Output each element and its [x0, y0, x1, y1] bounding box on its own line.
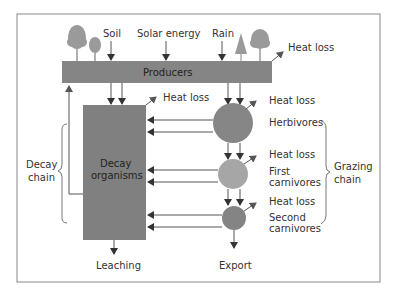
second-carnivores-heat-loss-label: Heat loss	[269, 196, 315, 207]
producers-label: Producers	[143, 67, 193, 78]
rain-label: Rain	[212, 28, 234, 39]
herbivores-heat-loss-label: Heat loss	[269, 95, 315, 106]
first-carnivores-label-line2: carnivores	[269, 177, 321, 188]
first-carnivores-heat-loss-label: Heat loss	[269, 149, 315, 160]
decay-organisms-label-line1: Decay	[100, 158, 131, 169]
leaching-label: Leaching	[96, 260, 141, 271]
second-carnivores-label-line2: carnivores	[269, 223, 321, 234]
soil-label: Soil	[103, 28, 121, 39]
export-label: Export	[219, 260, 252, 271]
second-carnivores-label-line1: Second	[269, 212, 306, 223]
decay-chain-label-line1: Decay	[26, 159, 57, 170]
first-carnivores-label-line1: First	[269, 166, 290, 177]
herbivores-label: Herbivores	[269, 117, 323, 128]
decay-chain-label-line2: chain	[28, 172, 55, 183]
producers-heat-loss-label: Heat loss	[288, 42, 334, 53]
solar-energy-label: Solar energy	[137, 28, 201, 39]
decay-heat-loss-label: Heat loss	[163, 92, 209, 103]
first-carnivores-circle	[218, 159, 248, 189]
grazing-chain-label-line1: Grazing	[334, 161, 373, 172]
grazing-chain-label-line2: chain	[334, 174, 361, 185]
decay-organisms-label-line2: organisms	[91, 170, 143, 181]
herbivores-circle	[213, 103, 253, 143]
ecosystem-diagram: Soil Solar energy Rain Producers Heat lo…	[0, 0, 394, 295]
second-carnivores-circle	[222, 206, 246, 230]
